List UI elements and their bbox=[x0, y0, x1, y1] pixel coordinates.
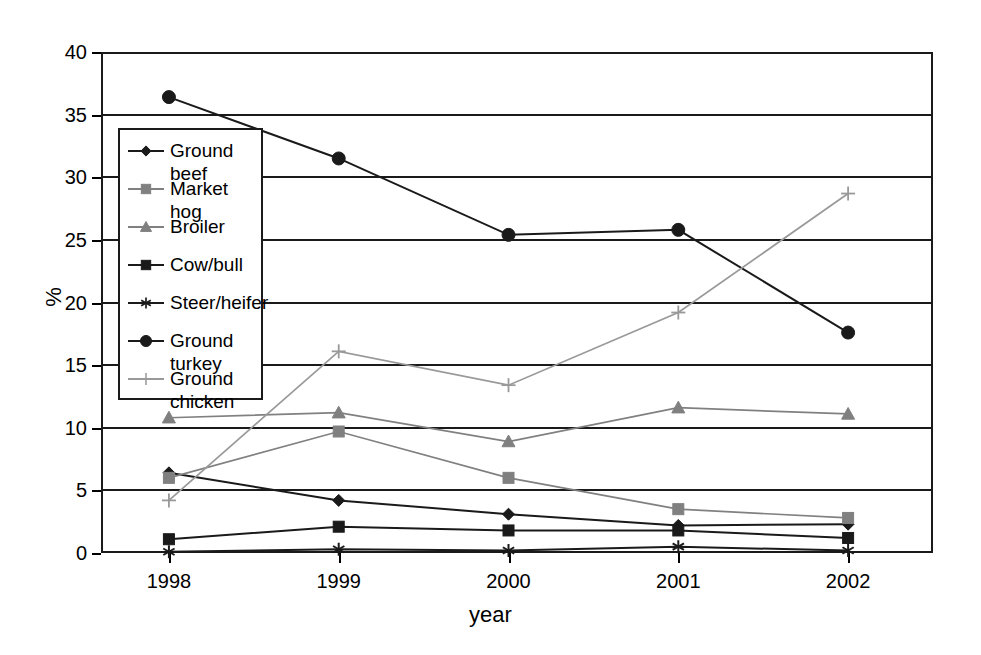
data-point-square bbox=[141, 184, 150, 193]
x-tick-mark bbox=[678, 553, 680, 563]
x-tick-label: 1998 bbox=[124, 571, 214, 591]
legend-marker-circle-icon bbox=[126, 331, 166, 351]
x-tick-mark bbox=[509, 553, 511, 563]
x-axis-label: year bbox=[0, 604, 981, 626]
y-tick-mark bbox=[92, 177, 101, 179]
y-tick-mark bbox=[92, 490, 101, 492]
legend-item-label: Broiler bbox=[170, 215, 225, 238]
legend-item-ground-turkey[interactable]: Ground turkey bbox=[120, 324, 261, 362]
line-chart: 0510152025303540 19981999200020012002 % … bbox=[0, 0, 981, 655]
legend-marker-diamond-icon bbox=[126, 141, 166, 161]
legend-item-market-hog[interactable]: Market hog bbox=[120, 172, 261, 210]
y-tick-mark bbox=[92, 115, 101, 117]
legend-marker-square-icon bbox=[126, 179, 166, 199]
y-tick-mark bbox=[92, 365, 101, 367]
x-tick-mark bbox=[169, 553, 171, 563]
gridline bbox=[101, 489, 933, 491]
legend-item-label: Steer/heifer bbox=[170, 291, 268, 314]
legend-marker-square-icon bbox=[126, 255, 166, 275]
y-tick-label: 5 bbox=[43, 480, 87, 500]
x-tick-label: 1999 bbox=[294, 571, 384, 591]
y-tick-label: 0 bbox=[43, 543, 87, 563]
legend-marker-asterisk-icon bbox=[126, 293, 166, 313]
legend-item-cow-bull[interactable]: Cow/bull bbox=[120, 248, 261, 286]
data-point-square bbox=[141, 260, 150, 269]
x-tick-label: 2000 bbox=[464, 571, 554, 591]
y-tick-label: 40 bbox=[43, 42, 87, 62]
y-tick-mark bbox=[92, 240, 101, 242]
legend-marker-plus-icon bbox=[126, 369, 166, 389]
y-tick-mark bbox=[92, 52, 101, 54]
y-tick-label: 15 bbox=[43, 355, 87, 375]
y-tick-mark bbox=[92, 428, 101, 430]
y-tick-label: 35 bbox=[43, 105, 87, 125]
y-tick-label: 30 bbox=[43, 167, 87, 187]
y-tick-label: 25 bbox=[43, 230, 87, 250]
x-tick-label: 2001 bbox=[633, 571, 723, 591]
data-point-plus bbox=[140, 373, 152, 385]
y-axis-label: % bbox=[43, 287, 65, 307]
data-point-circle bbox=[140, 335, 151, 346]
y-tick-mark bbox=[92, 553, 101, 555]
x-tick-label: 2002 bbox=[803, 571, 893, 591]
legend: Ground beefMarket hogBroilerCow/bullStee… bbox=[118, 128, 263, 400]
legend-marker-triangle-icon bbox=[126, 217, 166, 237]
y-tick-mark bbox=[92, 303, 101, 305]
x-tick-mark bbox=[339, 553, 341, 563]
legend-item-label: Cow/bull bbox=[170, 253, 243, 276]
legend-item-steer-heifer[interactable]: Steer/heifer bbox=[120, 286, 261, 324]
y-tick-label: 10 bbox=[43, 418, 87, 438]
x-tick-mark bbox=[848, 553, 850, 563]
gridline bbox=[101, 114, 933, 116]
legend-item-label: Ground chicken bbox=[170, 367, 234, 413]
data-point-diamond bbox=[141, 146, 151, 156]
legend-item-ground-beef[interactable]: Ground beef bbox=[120, 134, 261, 172]
gridline bbox=[101, 427, 933, 429]
